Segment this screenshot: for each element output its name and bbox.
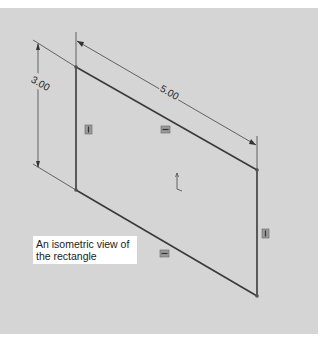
relation-vertical-right[interactable] (262, 229, 269, 238)
sketch-canvas: 3.00 5.00 (0, 0, 322, 350)
figure-caption: An isometric view of the rectangle (33, 236, 137, 264)
vertex-bottom-right[interactable] (255, 294, 259, 298)
arrow-right-icon (249, 139, 256, 145)
relation-horizontal-bottom[interactable] (160, 250, 169, 257)
origin-icon (176, 173, 183, 191)
dimension-height[interactable] (33, 40, 76, 190)
relation-vertical-left[interactable] (85, 125, 92, 134)
arrow-left-icon (77, 41, 84, 47)
relation-horizontal-top[interactable] (161, 126, 170, 133)
extension-line-bottom (33, 164, 76, 190)
arrow-down-icon (36, 161, 40, 168)
dimension-width[interactable] (76, 32, 257, 170)
extension-line-top (33, 40, 76, 67)
edge-top[interactable] (76, 67, 257, 170)
